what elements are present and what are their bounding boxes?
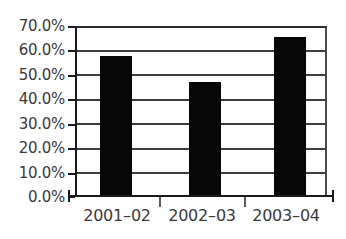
x-axis-category-tick-1 [159,197,161,207]
x-axis-line [68,195,334,197]
y-axis-label-0: 0.0% [0,190,65,205]
y-axis-label-10: 10.0% [0,166,65,181]
y-axis-tick-30 [68,124,75,126]
x-axis-label-2003-04: 2003–04 [231,207,341,225]
y-axis-label-40: 40.0% [0,92,65,107]
x-axis-end-tick [332,190,334,202]
y-axis-label-50: 50.0% [0,68,65,83]
y-axis-tick-60 [68,50,75,52]
y-axis-tick-50 [68,75,75,77]
y-axis-tick-10 [68,173,75,175]
y-axis-tick-70 [68,26,75,28]
x-axis-start-tick [68,190,70,202]
bar-chart-figure: 70.0% 60.0% 50.0% 40.0% 30.0% 20.0% 10.0… [0,0,346,239]
y-axis-label-20: 20.0% [0,141,65,156]
y-axis-label-30: 30.0% [0,117,65,132]
plot-area [75,26,327,197]
y-axis-label-70: 70.0% [0,19,65,34]
bar-2002-03 [190,83,220,195]
y-axis-tick-20 [68,148,75,150]
bar-2003-04 [275,38,305,195]
x-axis-category-tick-2 [244,197,246,207]
bar-2001-02 [101,57,131,195]
y-axis-label-60: 60.0% [0,43,65,58]
y-axis-tick-40 [68,99,75,101]
